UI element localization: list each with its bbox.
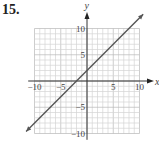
y-tick-label: 5 [81, 50, 86, 60]
x-axis-arrow-icon [147, 79, 154, 84]
y-axis-arrow-icon [85, 12, 90, 19]
y-tick-label: 10 [76, 24, 86, 34]
y-tick-label: −10 [71, 129, 86, 139]
x-tick-label: 10 [135, 82, 145, 92]
y-axis-label: y [84, 0, 90, 11]
x-axis-label: x [154, 76, 159, 87]
x-tick-label: 5 [111, 82, 116, 92]
coordinate-plane: xy −10−5510105−5−10 [0, 0, 159, 145]
y-tick-label: −5 [75, 102, 85, 112]
x-tick-label: −5 [56, 82, 66, 92]
x-tick-label: −10 [27, 82, 42, 92]
